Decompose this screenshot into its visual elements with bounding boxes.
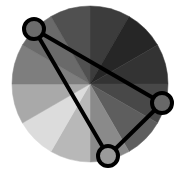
color-harmony-diagram bbox=[0, 0, 187, 176]
node-bottom[interactable] bbox=[98, 146, 118, 166]
color-wheel bbox=[0, 0, 187, 176]
node-top-left[interactable] bbox=[24, 19, 44, 39]
node-right[interactable] bbox=[152, 93, 172, 113]
